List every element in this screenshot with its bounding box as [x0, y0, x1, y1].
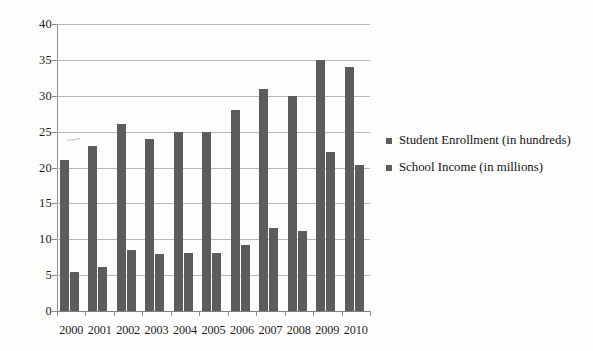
legend-label: School Income (in millions)	[399, 160, 543, 174]
bar	[212, 253, 221, 311]
y-tick-mark	[52, 60, 57, 61]
bar	[117, 124, 126, 311]
legend-entry: School Income (in millions)	[386, 160, 589, 176]
x-tick-label: 2010	[340, 324, 372, 336]
bar	[269, 228, 278, 311]
bar-group	[256, 24, 284, 311]
legend-entry: Student Enrollment (in hundreds)	[386, 133, 589, 149]
x-tick-mark	[199, 311, 200, 316]
bar-chart: 4035302520151050 20002001200220032004200…	[0, 0, 593, 351]
y-tick-mark	[52, 203, 57, 204]
y-tick-label: 20	[8, 161, 52, 174]
bar	[231, 110, 240, 311]
y-tick-mark	[52, 96, 57, 97]
y-tick-label: 5	[8, 269, 52, 282]
bar	[70, 272, 79, 311]
bar-group	[114, 24, 142, 311]
y-axis: 4035302520151050	[0, 0, 52, 351]
bar	[355, 165, 364, 311]
x-tick-mark	[370, 311, 371, 316]
y-tick-label: 15	[8, 197, 52, 210]
x-tick-mark	[342, 311, 343, 316]
y-tick-mark	[52, 24, 57, 25]
x-axis: 2000200120022003200420052006200720082009…	[57, 315, 371, 345]
bar	[345, 67, 354, 311]
x-tick-mark	[85, 311, 86, 316]
x-tick-mark	[256, 311, 257, 316]
bar-groups	[57, 24, 370, 311]
y-tick-label: 0	[8, 305, 52, 318]
plot-area	[57, 24, 370, 311]
x-tick-mark	[285, 311, 286, 316]
bar	[202, 132, 211, 311]
bar	[60, 160, 69, 311]
y-tick-mark	[52, 275, 57, 276]
y-tick-mark	[52, 168, 57, 169]
bar	[88, 146, 97, 311]
y-tick-mark	[52, 239, 57, 240]
bar	[174, 132, 183, 311]
bar	[241, 245, 250, 311]
y-tick-mark	[52, 132, 57, 133]
bar-group	[199, 24, 227, 311]
y-tick-label: 40	[8, 18, 52, 31]
bar	[98, 267, 107, 311]
x-tick-mark	[171, 311, 172, 316]
bar-group	[57, 24, 85, 311]
x-axis-line	[57, 311, 371, 312]
bar-group	[342, 24, 370, 311]
bar	[259, 89, 268, 311]
x-tick-mark	[57, 311, 58, 316]
x-tick-mark	[228, 311, 229, 316]
bar-group	[85, 24, 113, 311]
bar-group	[313, 24, 341, 311]
bar	[326, 152, 335, 311]
x-tick-mark	[142, 311, 143, 316]
bar	[298, 231, 307, 311]
bar	[127, 250, 136, 311]
y-tick-label: 30	[8, 90, 52, 103]
x-tick-mark	[114, 311, 115, 316]
bar	[184, 253, 193, 311]
bar-group	[171, 24, 199, 311]
bar	[316, 60, 325, 311]
scan-artifact	[67, 137, 80, 141]
x-tick-mark	[313, 311, 314, 316]
bar-group	[285, 24, 313, 311]
bar	[155, 254, 164, 311]
y-tick-label: 25	[8, 125, 52, 138]
legend-label: Student Enrollment (in hundreds)	[399, 133, 571, 147]
bar	[288, 96, 297, 311]
y-tick-label: 10	[8, 233, 52, 246]
y-tick-label: 35	[8, 54, 52, 67]
legend-swatch-icon	[386, 165, 392, 171]
bar-group	[228, 24, 256, 311]
bar	[145, 139, 154, 311]
bar-group	[142, 24, 170, 311]
legend-swatch-icon	[386, 138, 392, 144]
chart-legend: Student Enrollment (in hundreds)School I…	[386, 133, 589, 186]
